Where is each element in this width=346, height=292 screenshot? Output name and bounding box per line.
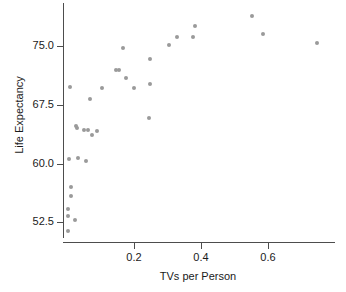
data-point [117, 68, 121, 72]
y-tick-mark [57, 222, 63, 223]
data-point [69, 185, 73, 189]
data-point [90, 133, 94, 137]
data-point [66, 214, 70, 218]
data-point [68, 85, 72, 89]
y-tick-mark [57, 105, 63, 106]
data-point [74, 124, 78, 128]
data-point [86, 128, 90, 132]
y-tick-label: 52.5 [33, 216, 54, 227]
data-point [75, 126, 79, 130]
y-axis-title: Life Expectancy [13, 55, 25, 175]
data-point [148, 82, 152, 86]
data-point [191, 35, 195, 39]
data-point [121, 46, 125, 50]
data-point [315, 41, 319, 45]
y-tick-label: 60.0 [33, 158, 54, 169]
data-point [147, 116, 151, 120]
x-tick-mark [134, 243, 135, 249]
y-tick-mark [57, 164, 63, 165]
data-point [69, 194, 73, 198]
data-point [132, 86, 136, 90]
data-point [84, 159, 88, 163]
x-tick-label: 0.4 [181, 252, 221, 263]
data-point [66, 207, 70, 211]
x-axis-title: TVs per Person [0, 270, 346, 282]
data-point [114, 68, 118, 72]
y-tick-label: 67.5 [33, 99, 54, 110]
data-point [250, 14, 254, 18]
data-point [76, 156, 80, 160]
data-point [82, 128, 86, 132]
x-tick-mark [201, 243, 202, 249]
y-axis-line [63, 3, 64, 238]
scatter-plot: 52.560.067.575.0 0.20.40.6 TVs per Perso… [0, 0, 346, 292]
data-point [95, 129, 99, 133]
x-tick-mark [268, 243, 269, 249]
data-point [148, 57, 152, 61]
data-point [88, 97, 92, 101]
data-point [100, 86, 104, 90]
data-point [175, 35, 179, 39]
y-tick-mark [57, 46, 63, 47]
data-point [66, 229, 70, 233]
x-axis-line [63, 242, 335, 243]
x-tick-label: 0.6 [248, 252, 288, 263]
x-tick-label: 0.2 [114, 252, 154, 263]
data-point [193, 24, 197, 28]
data-point [67, 157, 71, 161]
data-point [261, 32, 265, 36]
y-tick-label: 75.0 [33, 40, 54, 51]
data-point [167, 43, 171, 47]
data-point [73, 218, 77, 222]
data-point [124, 76, 128, 80]
